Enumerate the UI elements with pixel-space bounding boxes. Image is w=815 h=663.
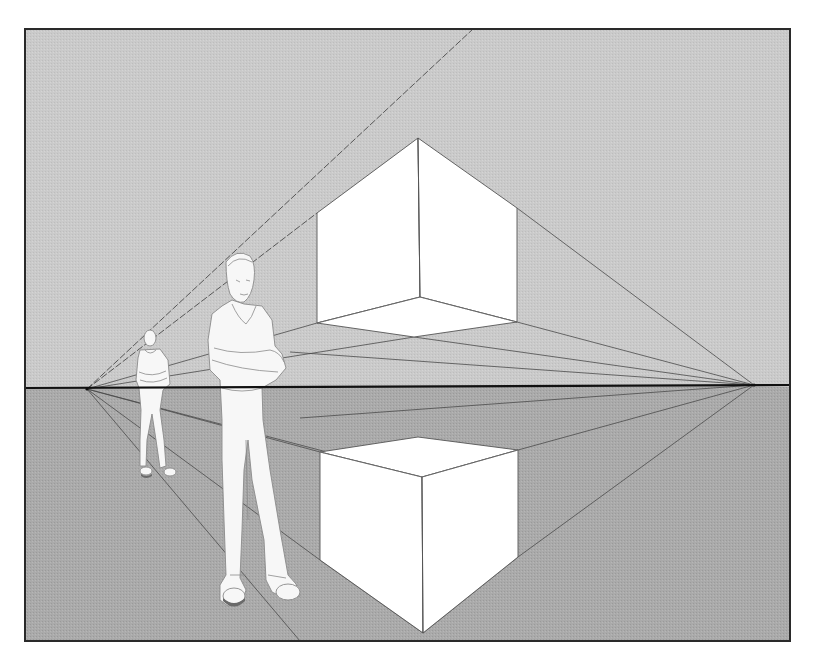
left-vanishing-point <box>85 387 88 390</box>
perspective-illustration <box>0 0 815 663</box>
right-vanishing-point <box>752 383 755 386</box>
